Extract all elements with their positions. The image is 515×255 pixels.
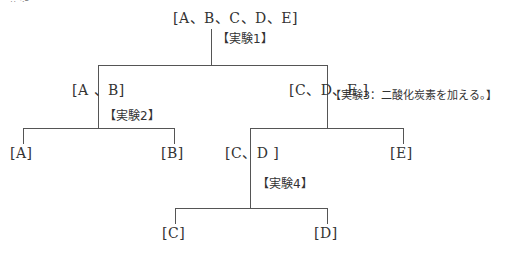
node-d: [D] bbox=[314, 225, 338, 241]
split-line-3 bbox=[250, 128, 404, 129]
split-line-2 bbox=[23, 128, 175, 129]
experiment-4-label: 【実験4】 bbox=[257, 177, 313, 191]
connector-a bbox=[23, 128, 24, 144]
node-cd: [C、D ] bbox=[225, 145, 279, 161]
cropped-header-text: （手順） bbox=[10, 0, 50, 2]
experiment-3-label: 【実験3：二酸化炭素を加える。】 bbox=[330, 89, 497, 103]
connector-cd bbox=[250, 128, 251, 208]
node-root: [A、B、C、D、E] bbox=[173, 10, 298, 26]
connector-b bbox=[174, 128, 175, 144]
split-line-1 bbox=[98, 65, 328, 66]
experiment-1-label: 【実験1】 bbox=[217, 32, 273, 46]
node-b: [B] bbox=[161, 145, 184, 161]
connector-e bbox=[403, 128, 404, 144]
connector-root bbox=[211, 29, 212, 65]
node-ab: [A 、B] bbox=[72, 82, 125, 98]
experiment-2-label: 【実験2】 bbox=[104, 109, 160, 123]
node-a: [A] bbox=[10, 145, 33, 161]
node-e: [E] bbox=[390, 145, 413, 161]
connector-c bbox=[175, 208, 176, 224]
node-c: [C] bbox=[162, 225, 185, 241]
split-line-4 bbox=[175, 208, 328, 209]
connector-d bbox=[327, 208, 328, 224]
